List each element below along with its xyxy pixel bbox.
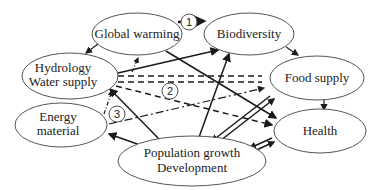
svg-text:1: 1 bbox=[186, 16, 192, 28]
svg-text:2: 2 bbox=[167, 85, 173, 97]
edge-bio-food bbox=[286, 47, 298, 55]
svg-text:3: 3 bbox=[114, 108, 120, 120]
node-food-supply: Food supply bbox=[270, 56, 364, 100]
edge-pop-food bbox=[216, 99, 274, 144]
marker-1: 1 bbox=[181, 14, 197, 30]
node-label: Health bbox=[303, 123, 338, 138]
node-energy-material: Energy material bbox=[15, 103, 107, 147]
node-label: Water supply bbox=[29, 74, 98, 89]
node-label: Hydrology bbox=[35, 60, 92, 75]
node-population-development: Population growth Development bbox=[118, 136, 266, 186]
node-global-warming: Global warming bbox=[92, 13, 182, 55]
node-biodiversity: Biodiversity bbox=[204, 13, 294, 55]
node-label: Biodiversity bbox=[217, 26, 282, 41]
node-label: Population growth bbox=[144, 145, 241, 160]
node-health: Health bbox=[274, 109, 366, 153]
node-label: Global warming bbox=[95, 26, 180, 41]
marker-3: 3 bbox=[109, 106, 125, 122]
marker-2: 2 bbox=[162, 83, 178, 99]
edge-food-pop bbox=[212, 96, 270, 141]
node-label: Energy bbox=[39, 109, 77, 124]
node-label: material bbox=[37, 123, 80, 138]
edge-hydro-gw-dashdot bbox=[132, 58, 138, 72]
diagram-canvas: Global warming Biodiversity Hydrology Wa… bbox=[0, 0, 379, 190]
edge-gw-health bbox=[166, 51, 276, 118]
node-hydrology: Hydrology Water supply bbox=[22, 53, 118, 99]
node-label: Food supply bbox=[285, 70, 350, 85]
edge-gw-hydro bbox=[86, 44, 98, 53]
node-label: Development bbox=[157, 160, 227, 175]
